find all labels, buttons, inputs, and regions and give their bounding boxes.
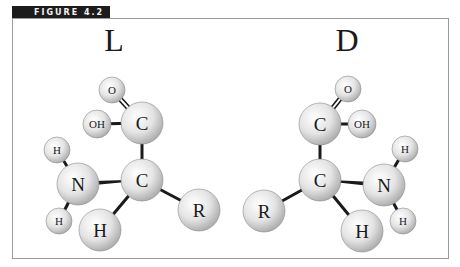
d-enantiomer: D OOHCCNHHHR bbox=[243, 22, 418, 252]
atom-n: N bbox=[363, 164, 405, 206]
atom-hb: H bbox=[46, 208, 72, 234]
atom-label: R bbox=[258, 201, 271, 222]
atom-oh: OH bbox=[348, 110, 376, 138]
atom-label: H bbox=[53, 144, 61, 156]
atom-label: N bbox=[377, 175, 391, 196]
atom-label: H bbox=[399, 215, 407, 227]
atom-label: H bbox=[55, 215, 63, 227]
atom-label: H bbox=[355, 221, 369, 242]
atom-r: R bbox=[243, 190, 285, 232]
atom-label: O bbox=[344, 83, 352, 95]
atom-label: R bbox=[193, 200, 206, 221]
atom-oh: OH bbox=[83, 110, 111, 138]
atom-label: C bbox=[136, 113, 149, 134]
atom-label: C bbox=[314, 114, 327, 135]
atom-label: C bbox=[136, 170, 149, 191]
atom-h: H bbox=[341, 210, 383, 252]
atom-label: OH bbox=[354, 118, 370, 130]
atom-o: O bbox=[99, 77, 125, 103]
atom-c1: C bbox=[299, 103, 341, 145]
atom-label: H bbox=[93, 220, 107, 241]
atom-label: OH bbox=[89, 118, 105, 130]
molecule-diagram: L OOHCCNHHHR D OOHCCNHHHR bbox=[0, 0, 460, 267]
atom-o: O bbox=[335, 76, 361, 102]
atom-label: C bbox=[314, 170, 327, 191]
atom-n: N bbox=[57, 163, 99, 205]
atom-label: O bbox=[108, 84, 116, 96]
atom-h: H bbox=[79, 209, 121, 251]
atom-label: H bbox=[401, 143, 409, 155]
atom-c1: C bbox=[121, 102, 163, 144]
atom-c2: C bbox=[121, 159, 163, 201]
d-title: D bbox=[335, 22, 358, 58]
atom-r: R bbox=[178, 189, 220, 231]
atom-label: N bbox=[71, 174, 85, 195]
atom-hb: H bbox=[390, 208, 416, 234]
atom-ht: H bbox=[44, 137, 70, 163]
atom-ht: H bbox=[392, 136, 418, 162]
l-enantiomer: L OOHCCNHHHR bbox=[44, 22, 220, 251]
atom-c2: C bbox=[299, 159, 341, 201]
l-title: L bbox=[104, 22, 124, 58]
